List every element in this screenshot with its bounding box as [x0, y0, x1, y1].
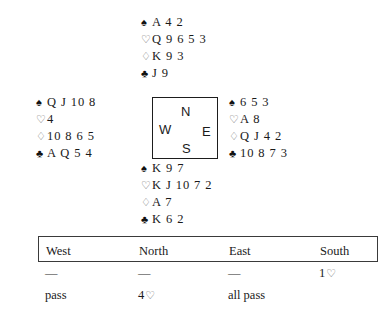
bid-west-1: — — [45, 264, 58, 282]
hand-south-clubs-cards: K 6 2 — [152, 212, 184, 226]
compass-south-label: S — [182, 142, 191, 155]
auction-row: — — — 1♡ — [38, 264, 378, 286]
compass-east-label: E — [202, 125, 211, 138]
compass-west-label: W — [159, 123, 171, 136]
bid-east-1: — — [228, 264, 241, 282]
diamond-symbol: ♢ — [141, 194, 152, 211]
heart-symbol: ♡ — [229, 111, 240, 128]
hand-south-spades: ♠K 9 7 — [141, 160, 212, 177]
hand-north-spades: ♠A 4 2 — [141, 14, 207, 31]
auction-header-row: West North East South — [38, 236, 378, 262]
hand-west-hearts: ♡4 — [36, 111, 96, 128]
auction-header-south: South — [320, 245, 349, 258]
hand-west-clubs: ♣A Q 5 4 — [36, 145, 96, 162]
hand-east-spades-cards: 6 5 3 — [240, 95, 270, 109]
hand-west-diamonds-cards: 10 8 6 5 — [47, 129, 95, 143]
hand-west-spades: ♠Q J 10 8 — [36, 94, 96, 111]
spade-symbol: ♠ — [36, 94, 47, 111]
hand-south-hearts-cards: K J 10 7 2 — [152, 178, 212, 192]
hand-south-diamonds: ♢A 7 — [141, 194, 212, 211]
club-symbol: ♣ — [229, 145, 240, 162]
heart-symbol: ♡ — [141, 31, 152, 48]
bid-north-2: 4♡ — [138, 286, 155, 304]
hand-south-diamonds-cards: A 7 — [152, 195, 172, 209]
hand-north-clubs: ♣J 9 — [141, 65, 207, 82]
auction-row: pass 4♡ all pass — [38, 286, 378, 308]
spade-symbol: ♠ — [141, 160, 152, 177]
hand-north-hearts-cards: Q 9 6 5 3 — [152, 32, 207, 46]
hand-south: ♠K 9 7 ♡K J 10 7 2 ♢A 7 ♣K 6 2 — [141, 160, 212, 228]
auction-header-north: North — [139, 245, 168, 258]
heart-symbol: ♡ — [325, 267, 336, 279]
hand-north-diamonds-cards: K 9 3 — [152, 49, 184, 63]
auction-header-west: West — [46, 245, 71, 258]
bid-east-2: all pass — [228, 286, 265, 304]
hand-south-hearts: ♡K J 10 7 2 — [141, 177, 212, 194]
hand-north-hearts: ♡Q 9 6 5 3 — [141, 31, 207, 48]
hand-south-spades-cards: K 9 7 — [152, 161, 184, 175]
hand-south-clubs: ♣K 6 2 — [141, 211, 212, 228]
club-symbol: ♣ — [141, 65, 152, 82]
hand-east-hearts-cards: A 8 — [240, 112, 260, 126]
hand-east-hearts: ♡A 8 — [229, 111, 288, 128]
auction-header-east: East — [229, 245, 251, 258]
hand-west-clubs-cards: A Q 5 4 — [47, 146, 93, 160]
hand-east-diamonds-cards: Q J 4 2 — [240, 129, 282, 143]
hand-west: ♠Q J 10 8 ♡4 ♢10 8 6 5 ♣A Q 5 4 — [36, 94, 96, 162]
hand-east: ♠6 5 3 ♡A 8 ♢Q J 4 2 ♣10 8 7 3 — [229, 94, 288, 162]
hand-west-diamonds: ♢10 8 6 5 — [36, 128, 96, 145]
heart-symbol: ♡ — [141, 177, 152, 194]
heart-symbol: ♡ — [36, 111, 47, 128]
club-symbol: ♣ — [36, 145, 47, 162]
spade-symbol: ♠ — [229, 94, 240, 111]
diamond-symbol: ♢ — [36, 128, 47, 145]
spade-symbol: ♠ — [141, 14, 152, 31]
hand-north: ♠A 4 2 ♡Q 9 6 5 3 ♢K 9 3 ♣J 9 — [141, 14, 207, 82]
hand-east-spades: ♠6 5 3 — [229, 94, 288, 111]
hand-east-clubs: ♣10 8 7 3 — [229, 145, 288, 162]
hand-west-spades-cards: Q J 10 8 — [47, 95, 96, 109]
compass-box: N W E S — [152, 97, 218, 159]
hand-north-spades-cards: A 4 2 — [152, 15, 184, 29]
diamond-symbol: ♢ — [141, 48, 152, 65]
bid-north-1: — — [138, 264, 151, 282]
hand-east-clubs-cards: 10 8 7 3 — [240, 146, 288, 160]
heart-symbol: ♡ — [144, 289, 155, 301]
bridge-deal-diagram: ♠A 4 2 ♡Q 9 6 5 3 ♢K 9 3 ♣J 9 ♠Q J 10 8 … — [0, 0, 385, 232]
compass-north-label: N — [181, 105, 190, 118]
hand-north-diamonds: ♢K 9 3 — [141, 48, 207, 65]
hand-west-hearts-cards: 4 — [47, 112, 54, 126]
bid-west-2: pass — [45, 286, 67, 304]
bid-south-1: 1♡ — [319, 264, 336, 282]
diamond-symbol: ♢ — [229, 128, 240, 145]
hand-north-clubs-cards: J 9 — [152, 66, 169, 80]
hand-east-diamonds: ♢Q J 4 2 — [229, 128, 288, 145]
club-symbol: ♣ — [141, 211, 152, 228]
